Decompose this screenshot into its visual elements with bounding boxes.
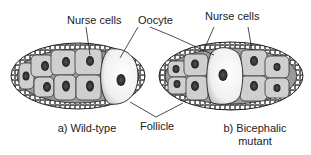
diagram-canvas: Nurse cells Oocyte Nurse cells Follicle …	[0, 0, 311, 155]
caption-bicephalic: b) Bicephalic mutant	[210, 122, 300, 148]
caption-bicephalic-line1: b) Bicephalic	[210, 122, 300, 135]
oocyte-label: Oocyte	[138, 14, 173, 26]
caption-wild-type: a) Wild-type	[52, 122, 122, 135]
wild-type-egg-chamber	[11, 43, 145, 109]
nurse-cells-label-a: Nurse cells	[67, 14, 121, 26]
nurse-cells-label-b: Nurse cells	[205, 10, 259, 22]
bicephalic-egg-chamber	[159, 42, 303, 110]
oocyte-nucleus-a	[117, 74, 126, 86]
nurse-cells-b-left	[168, 54, 208, 100]
nurse-cells-b-right	[240, 50, 289, 101]
follicle-label: Follicle	[140, 120, 174, 132]
caption-bicephalic-line2: mutant	[210, 135, 300, 148]
oocyte-nucleus-b	[219, 69, 228, 81]
